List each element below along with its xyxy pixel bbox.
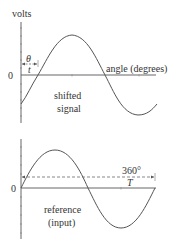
phase-shift-diagram: θ t volts 0 angle (degrees) shifted sign… xyxy=(0,0,179,251)
top-plot: θ t volts 0 angle (degrees) shifted sign… xyxy=(8,8,167,123)
bottom-plot: 360° T 0 reference (input) xyxy=(11,139,156,239)
y-axis-label: volts xyxy=(12,8,32,19)
t-symbol: t xyxy=(28,65,31,75)
period-symbol: T xyxy=(127,177,134,188)
reference-label-line2: (input) xyxy=(48,217,75,229)
period-arrow-left xyxy=(22,176,25,179)
period-arrow-right xyxy=(151,176,154,179)
period-angle-label: 360° xyxy=(122,165,141,176)
top-zero-label: 0 xyxy=(8,70,13,81)
theta-symbol: θ xyxy=(26,53,31,64)
theta-arrow-left xyxy=(22,63,25,66)
reference-label-line1: reference xyxy=(44,204,82,215)
shifted-label-line2: signal xyxy=(57,103,81,114)
reference-signal-curve xyxy=(21,150,155,228)
x-axis-label: angle (degrees) xyxy=(106,63,167,75)
theta-arrow-right xyxy=(34,63,37,66)
bottom-zero-label: 0 xyxy=(11,183,16,194)
shifted-label-line1: shifted xyxy=(54,90,81,101)
